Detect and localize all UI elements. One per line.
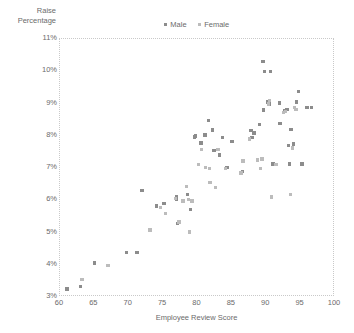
y-tick-label: 9% bbox=[17, 99, 57, 107]
data-point bbox=[262, 108, 265, 111]
y-axis-title-line-1: Raise bbox=[0, 6, 56, 16]
x-tick-label: 95 bbox=[285, 299, 315, 307]
y-tick-label: 6% bbox=[17, 195, 57, 203]
data-point bbox=[260, 157, 263, 160]
data-point bbox=[310, 106, 313, 109]
data-point bbox=[221, 136, 224, 139]
data-point bbox=[148, 228, 151, 231]
data-point bbox=[248, 137, 251, 140]
data-point bbox=[164, 212, 167, 215]
data-point bbox=[261, 60, 264, 63]
data-point bbox=[263, 70, 266, 73]
data-point bbox=[190, 199, 193, 202]
data-point bbox=[230, 140, 233, 143]
data-point bbox=[256, 158, 259, 161]
x-tick-label: 70 bbox=[113, 299, 143, 307]
data-point bbox=[270, 195, 273, 198]
data-point bbox=[189, 208, 192, 211]
y-tick-label: 10% bbox=[17, 66, 57, 74]
data-point bbox=[211, 128, 214, 131]
y-tick-label: 11% bbox=[17, 34, 57, 42]
legend-item-male[interactable]: Male bbox=[164, 20, 187, 29]
scatter-chart: Raise Percentage MaleFemale 3%4%5%6%7%8%… bbox=[0, 0, 354, 333]
data-point bbox=[218, 153, 221, 156]
data-point bbox=[185, 185, 188, 188]
data-point bbox=[259, 167, 262, 170]
data-point bbox=[289, 128, 292, 131]
legend-swatch-icon bbox=[164, 23, 168, 27]
x-tick-label: 85 bbox=[216, 299, 246, 307]
data-point bbox=[199, 141, 202, 144]
data-point bbox=[297, 90, 300, 93]
legend-label: Female bbox=[204, 20, 229, 29]
data-point bbox=[269, 70, 272, 73]
x-tick-label: 60 bbox=[44, 299, 74, 307]
data-point bbox=[224, 167, 227, 170]
data-point bbox=[194, 134, 197, 137]
y-tick-label: 4% bbox=[17, 260, 57, 268]
y-axis-title-line-2: Percentage bbox=[0, 16, 56, 26]
data-point bbox=[284, 110, 287, 113]
data-point bbox=[135, 251, 138, 254]
data-point bbox=[159, 206, 162, 209]
x-tick-label: 75 bbox=[147, 299, 177, 307]
data-point bbox=[239, 171, 242, 174]
x-tick-label: 65 bbox=[78, 299, 108, 307]
data-point bbox=[305, 106, 308, 109]
y-axis-title: Raise Percentage bbox=[0, 6, 56, 25]
legend-label: Male bbox=[170, 20, 186, 29]
y-tick-label: 5% bbox=[17, 228, 57, 236]
data-point bbox=[252, 131, 255, 134]
data-point bbox=[188, 230, 191, 233]
data-point bbox=[274, 163, 277, 166]
data-point bbox=[208, 181, 211, 184]
data-point bbox=[287, 144, 290, 147]
data-point bbox=[241, 159, 244, 162]
x-tick-label: 90 bbox=[250, 299, 280, 307]
data-points-layer bbox=[60, 39, 333, 295]
data-point bbox=[140, 189, 143, 192]
data-point bbox=[291, 146, 294, 149]
x-tick-label: 100 bbox=[319, 299, 349, 307]
data-point bbox=[174, 197, 177, 200]
data-point bbox=[278, 101, 281, 104]
data-point bbox=[181, 199, 184, 202]
data-point bbox=[208, 167, 211, 170]
data-point bbox=[197, 163, 200, 166]
data-point bbox=[295, 100, 298, 103]
data-point bbox=[258, 123, 261, 126]
data-point bbox=[268, 99, 271, 102]
data-point bbox=[207, 119, 210, 122]
data-point bbox=[278, 122, 281, 125]
plot-area bbox=[59, 38, 334, 296]
legend-swatch-icon bbox=[198, 23, 202, 27]
y-tick-label: 8% bbox=[17, 131, 57, 139]
chart-legend: MaleFemale bbox=[59, 20, 334, 29]
data-point bbox=[65, 287, 68, 290]
data-point bbox=[155, 204, 158, 207]
data-point bbox=[125, 251, 128, 254]
data-point bbox=[267, 102, 270, 105]
data-point bbox=[292, 142, 295, 145]
legend-item-female[interactable]: Female bbox=[198, 20, 230, 29]
x-axis-title: Employee Review Score bbox=[59, 313, 334, 322]
data-point bbox=[162, 202, 165, 205]
data-point bbox=[294, 108, 297, 111]
data-point bbox=[203, 133, 206, 136]
data-point bbox=[288, 162, 291, 165]
x-tick-label: 80 bbox=[182, 299, 212, 307]
data-point bbox=[80, 278, 83, 281]
y-tick-label: 7% bbox=[17, 163, 57, 171]
data-point bbox=[93, 261, 96, 264]
data-point bbox=[214, 186, 217, 189]
data-point bbox=[200, 148, 203, 151]
data-point bbox=[212, 149, 215, 152]
data-point bbox=[106, 264, 109, 267]
data-point bbox=[79, 285, 82, 288]
data-point bbox=[177, 220, 180, 223]
data-point bbox=[216, 148, 219, 151]
data-point bbox=[300, 162, 303, 165]
data-point bbox=[186, 193, 189, 196]
data-point bbox=[289, 193, 292, 196]
